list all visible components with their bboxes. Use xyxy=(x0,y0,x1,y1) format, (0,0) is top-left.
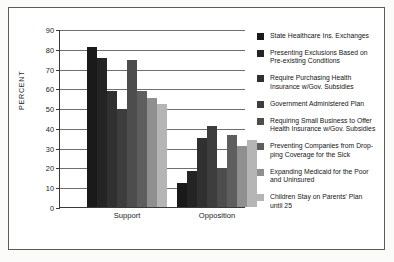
y-tick-label: 20 xyxy=(46,164,54,173)
legend-item[interactable]: Presenting Exclusions Based on Pre-exist… xyxy=(257,49,394,66)
y-tick-label: 80 xyxy=(46,45,54,54)
bar xyxy=(177,183,187,207)
y-tick-label: 10 xyxy=(46,184,54,193)
bar xyxy=(187,171,197,207)
legend-label: Children Stay on Parents' Plan until 25 xyxy=(270,193,362,210)
legend-item[interactable]: Expanding Medicaid for the Poor and Unin… xyxy=(257,168,394,185)
legend-swatch-icon xyxy=(257,75,264,82)
bar-groups xyxy=(59,30,245,207)
legend-label: Presenting Exclusions Based on Pre-exist… xyxy=(270,49,367,66)
y-tick-label: 30 xyxy=(46,144,54,153)
axes xyxy=(59,30,245,208)
bar xyxy=(237,146,247,207)
bar xyxy=(147,98,157,207)
legend-item[interactable]: Children Stay on Parents' Plan until 25 xyxy=(257,193,394,210)
y-tick-label: 40 xyxy=(46,124,54,133)
bar xyxy=(247,140,257,207)
y-tick-label: 70 xyxy=(46,65,54,74)
bar xyxy=(207,126,217,207)
legend-swatch-icon xyxy=(257,101,264,108)
y-axis-title: PERCENT xyxy=(17,71,26,110)
legend-label: Preventing Companies from Drop- ping Cov… xyxy=(270,142,373,159)
legend-swatch-icon xyxy=(257,50,264,57)
bar xyxy=(117,109,127,207)
legend-swatch-icon xyxy=(257,118,264,125)
category-label: Opposition xyxy=(199,211,235,220)
legend-item[interactable]: Government Administered Plan xyxy=(257,100,394,109)
chart-page: PERCENT 9080706050403020100 SupportOppos… xyxy=(0,0,394,262)
legend-item[interactable]: Require Purchasing Health Insurance w/Go… xyxy=(257,74,394,91)
y-axis-tick-labels: 9080706050403020100 xyxy=(31,30,57,208)
chart-frame: PERCENT 9080706050403020100 SupportOppos… xyxy=(8,7,385,250)
legend-swatch-icon xyxy=(257,33,264,40)
bar xyxy=(227,135,237,207)
legend-swatch-icon xyxy=(257,143,264,150)
bar xyxy=(157,104,167,207)
bar xyxy=(107,91,117,207)
bar-group-opposition xyxy=(177,30,257,207)
x-axis-category-labels: SupportOpposition xyxy=(59,211,245,225)
plot-area: PERCENT 9080706050403020100 SupportOppos… xyxy=(21,30,249,235)
x-axis-line xyxy=(59,207,245,208)
bar xyxy=(87,47,97,207)
legend-label: Expanding Medicaid for the Poor and Unin… xyxy=(270,168,369,185)
legend-item[interactable]: Requiring Small Business to Offer Health… xyxy=(257,117,394,134)
bar-group-support xyxy=(87,30,167,207)
legend-swatch-icon xyxy=(257,169,264,176)
legend-label: Require Purchasing Health Insurance w/Go… xyxy=(270,74,354,91)
bar xyxy=(137,91,147,207)
category-label: Support xyxy=(114,211,141,220)
legend-label: State Healthcare Ins. Exchanges xyxy=(270,32,369,41)
y-tick-mark xyxy=(56,208,60,209)
legend-label: Government Administered Plan xyxy=(270,100,364,109)
y-tick-label: 90 xyxy=(46,26,54,35)
bar xyxy=(217,168,227,207)
bar xyxy=(197,138,207,207)
bar xyxy=(127,60,137,207)
bar xyxy=(97,58,107,207)
legend-item[interactable]: State Healthcare Ins. Exchanges xyxy=(257,32,394,41)
chart-legend: State Healthcare Ins. ExchangesPresentin… xyxy=(257,32,394,219)
y-tick-label: 50 xyxy=(46,105,54,114)
legend-label: Requiring Small Business to Offer Health… xyxy=(270,117,375,134)
y-tick-label: 60 xyxy=(46,85,54,94)
legend-item[interactable]: Preventing Companies from Drop- ping Cov… xyxy=(257,142,394,159)
legend-swatch-icon xyxy=(257,194,264,201)
y-tick-label: 0 xyxy=(50,204,54,213)
